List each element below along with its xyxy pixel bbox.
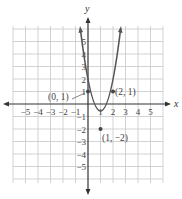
x-axis-label: x xyxy=(173,98,179,109)
x-tick: 3 xyxy=(123,107,128,117)
y-tick: −2 xyxy=(76,125,86,135)
x-tick: 2 xyxy=(111,107,116,117)
label-point-0-1: (0, 1) xyxy=(48,92,69,103)
x-tick: −5 xyxy=(21,107,31,117)
label-point-1-m2: (1, −2) xyxy=(102,133,128,144)
x-tick: 1 xyxy=(98,107,103,117)
label-point-2-1: (2, 1) xyxy=(115,87,136,98)
y-axis-down-arrow-icon xyxy=(86,189,91,195)
x-tick: −4 xyxy=(33,107,43,117)
y-tick: 2 xyxy=(82,75,87,85)
x-tick-labels: −5 −4 −3 −2 −1 1 2 3 4 5 xyxy=(21,107,154,117)
x-axis-left-arrow-icon xyxy=(3,102,9,107)
x-tick: −2 xyxy=(58,107,68,117)
curve-right-arrow-icon xyxy=(118,26,123,33)
parabola-chart: y x −5 −4 −3 −2 −1 1 2 3 4 5 5 4 3 2 1 −… xyxy=(0,0,182,199)
x-tick: 5 xyxy=(148,107,153,117)
axes xyxy=(3,17,171,195)
y-axis-up-arrow-icon xyxy=(86,17,91,23)
x-tick: 4 xyxy=(136,107,141,117)
y-tick: −3 xyxy=(76,137,86,147)
y-tick: −5 xyxy=(76,162,86,172)
point-0-1 xyxy=(86,90,90,94)
y-tick: −4 xyxy=(76,150,86,160)
y-tick: 1 xyxy=(82,87,87,97)
y-tick: −1 xyxy=(76,112,86,122)
x-axis-right-arrow-icon xyxy=(165,102,171,107)
x-tick: −3 xyxy=(46,107,56,117)
y-axis-label: y xyxy=(84,3,90,14)
point-1-m2 xyxy=(99,127,103,131)
curve-left-arrow-icon xyxy=(79,26,84,33)
